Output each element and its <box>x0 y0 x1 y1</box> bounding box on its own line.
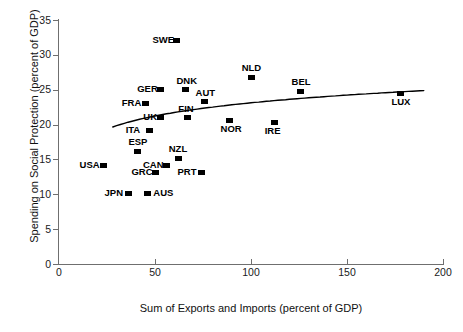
data-point-label-ger: GER <box>137 84 158 94</box>
data-point-label-esp: ESP <box>128 137 147 147</box>
data-point-label-jpn: JPN <box>105 188 123 198</box>
data-point-label-fin: FIN <box>178 104 193 114</box>
data-point-label-grc: GRC <box>131 167 152 177</box>
data-point-aus[interactable] <box>144 191 151 196</box>
data-point-label-nzl: NZL <box>169 144 187 154</box>
plot-area: SWEGERDNKAUTNLDBELLUXFRAUKFINITANORIREES… <box>0 0 463 332</box>
data-point-nld[interactable] <box>248 75 255 80</box>
data-point-label-ita: ITA <box>126 125 141 135</box>
data-point-label-bel: BEL <box>292 77 311 87</box>
data-point-esp[interactable] <box>134 149 141 154</box>
data-point-ger[interactable] <box>157 87 164 92</box>
data-point-label-usa: USA <box>80 160 100 170</box>
data-point-nor[interactable] <box>226 118 233 123</box>
data-point-label-aut: AUT <box>196 88 216 98</box>
data-point-label-prt: PRT <box>177 167 196 177</box>
data-point-uk[interactable] <box>157 115 164 120</box>
data-point-label-lux: LUX <box>391 97 410 107</box>
data-point-label-aus: AUS <box>153 188 173 198</box>
data-point-label-nld: NLD <box>242 63 262 73</box>
data-point-label-swe: SWE <box>153 35 175 45</box>
data-point-label-ire: IRE <box>265 126 281 136</box>
scatter-chart: 05101520253035 050100150200 Spending on … <box>0 0 463 332</box>
data-point-fin[interactable] <box>184 115 191 120</box>
data-point-nzl[interactable] <box>175 156 182 161</box>
data-point-prt[interactable] <box>198 170 205 175</box>
data-point-bel[interactable] <box>297 89 304 94</box>
data-point-lux[interactable] <box>397 91 404 96</box>
data-point-jpn[interactable] <box>125 191 132 196</box>
data-point-dnk[interactable] <box>182 87 189 92</box>
data-point-ire[interactable] <box>271 120 278 125</box>
data-point-label-nor: NOR <box>221 124 242 134</box>
data-point-can[interactable] <box>163 163 170 168</box>
data-point-usa[interactable] <box>100 163 107 168</box>
data-point-label-dnk: DNK <box>176 76 197 86</box>
data-point-label-uk: UK <box>143 112 157 122</box>
data-point-aut[interactable] <box>201 99 208 104</box>
data-point-ita[interactable] <box>146 128 153 133</box>
data-point-fra[interactable] <box>142 101 149 106</box>
data-point-label-fra: FRA <box>122 98 142 108</box>
